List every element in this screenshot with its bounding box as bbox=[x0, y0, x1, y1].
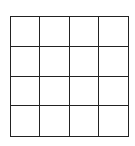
grid-4x4 bbox=[10, 16, 129, 137]
grid-cell bbox=[99, 77, 128, 107]
grid-cell bbox=[11, 47, 40, 77]
grid-cell bbox=[70, 106, 99, 136]
grid-cell bbox=[70, 17, 99, 47]
grid-cell bbox=[70, 47, 99, 77]
grid-cell bbox=[11, 17, 40, 47]
grid-cell bbox=[40, 106, 69, 136]
grid-cell bbox=[40, 47, 69, 77]
grid-cell bbox=[11, 106, 40, 136]
grid-cell bbox=[40, 17, 69, 47]
grid-cell bbox=[99, 47, 128, 77]
grid-cell bbox=[99, 17, 128, 47]
grid-cell bbox=[99, 106, 128, 136]
grid-cell bbox=[70, 77, 99, 107]
grid-cell bbox=[11, 77, 40, 107]
grid-cell bbox=[40, 77, 69, 107]
